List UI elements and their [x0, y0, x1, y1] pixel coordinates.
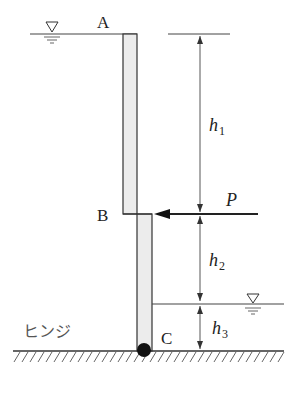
label-h2: h 2 [209, 250, 225, 273]
dimension-h3 [197, 306, 203, 349]
label-A: A [97, 13, 110, 32]
hinge-pin-icon [137, 343, 151, 357]
water-level-icon [44, 22, 60, 43]
label-h1: h 1 [209, 115, 225, 138]
dimension-h1 [197, 36, 203, 212]
label-B: B [97, 206, 108, 225]
svg-text:3: 3 [222, 327, 228, 341]
label-h3: h 3 [212, 318, 228, 341]
label-C: C [161, 329, 172, 348]
upper-wall-section [123, 34, 137, 214]
svg-text:1: 1 [219, 124, 225, 138]
lower-water-surface [152, 294, 284, 314]
svg-text:h: h [209, 115, 218, 135]
svg-text:h: h [209, 250, 218, 270]
hinged-wall-diagram: A B C P h 1 h 2 h 3 ヒンジ [0, 0, 290, 395]
label-P: P [225, 190, 237, 210]
svg-text:2: 2 [219, 259, 225, 273]
svg-text:h: h [212, 318, 221, 338]
hinge-label: ヒンジ [23, 322, 71, 341]
upper-water-surface [30, 22, 137, 43]
force-arrow-P [154, 209, 258, 219]
lower-wall-section [137, 214, 152, 351]
dimension-h2 [197, 216, 203, 301]
